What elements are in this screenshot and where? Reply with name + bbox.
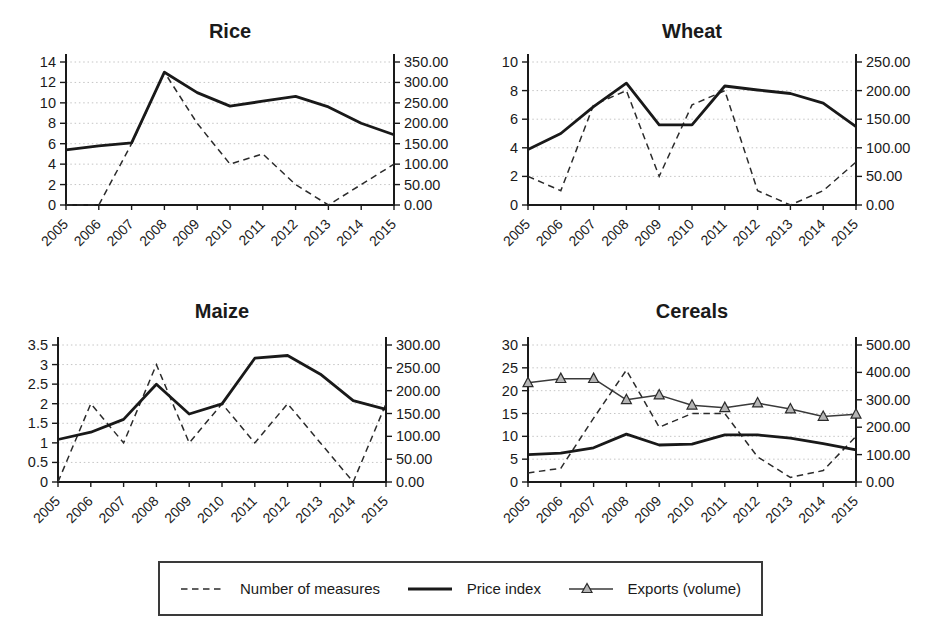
wheat-chart: Wheat 02468100.0050.00100.00150.00200.00…	[470, 0, 930, 280]
year-label: 2006	[71, 216, 104, 249]
triangle-marker	[851, 409, 861, 418]
left-tick-label: 0	[48, 197, 56, 213]
year-label: 2014	[325, 493, 358, 526]
year-label: 2007	[565, 216, 598, 249]
left-tick-label: 0	[510, 197, 518, 213]
left-tick-label: 2	[48, 177, 56, 193]
year-label: 2005	[500, 493, 533, 526]
year-label: 2005	[38, 216, 71, 249]
triangle-marker	[589, 373, 599, 382]
left-tick-label: 1	[40, 435, 48, 451]
left-tick-label: 4	[510, 140, 518, 156]
year-label: 2013	[300, 216, 333, 249]
rice-chart: Rice 024681012140.0050.00100.00150.00200…	[8, 0, 468, 280]
right-tick-label: 150.00	[396, 406, 440, 422]
year-label: 2007	[565, 493, 598, 526]
legend-label-price: Price index	[467, 580, 541, 597]
right-tick-label: 250.00	[396, 360, 440, 376]
rice-chart-canvas: Rice 024681012140.0050.00100.00150.00200…	[8, 0, 468, 280]
year-label: 2014	[795, 216, 828, 249]
year-label: 2012	[259, 493, 292, 526]
year-label: 2006	[533, 216, 566, 249]
right-tick-label: 0.00	[866, 197, 894, 213]
year-label: 2005	[30, 493, 63, 526]
year-label: 2009	[631, 216, 664, 249]
chart-title: Maize	[195, 300, 249, 322]
year-label: 2015	[366, 216, 399, 249]
year-label: 2010	[194, 493, 227, 526]
year-label: 2008	[598, 493, 631, 526]
triangle-marker-sample	[568, 581, 614, 597]
series-solid	[528, 83, 856, 149]
left-tick-label: 3.5	[28, 337, 48, 353]
left-tick-label: 0.5	[28, 454, 48, 470]
right-tick-label: 0.00	[866, 474, 894, 490]
right-tick-label: 200.00	[396, 383, 440, 399]
year-label: 2010	[664, 493, 697, 526]
year-label: 2009	[169, 216, 202, 249]
left-tick-label: 25	[502, 360, 518, 376]
wheat-chart-canvas: Wheat 02468100.0050.00100.00150.00200.00…	[470, 0, 930, 280]
right-tick-label: 100.00	[866, 447, 910, 463]
series-dashed	[66, 72, 394, 205]
right-tick-label: 300.00	[396, 337, 440, 353]
left-tick-label: 10	[502, 54, 518, 70]
right-tick-label: 250.00	[404, 95, 448, 111]
figure-commodity-charts: Rice 024681012140.0050.00100.00150.00200…	[0, 0, 935, 639]
year-label: 2014	[333, 216, 366, 249]
right-tick-label: 150.00	[404, 136, 448, 152]
right-tick-label: 350.00	[404, 54, 448, 70]
left-tick-label: 10	[502, 428, 518, 444]
right-tick-label: 300.00	[866, 392, 910, 408]
left-tick-label: 0	[510, 474, 518, 490]
year-label: 2015	[358, 493, 391, 526]
right-tick-label: 0.00	[396, 474, 424, 490]
series-marker	[528, 379, 856, 417]
right-tick-label: 200.00	[866, 83, 910, 99]
year-label: 2009	[631, 493, 664, 526]
series-dashed	[528, 370, 856, 477]
left-tick-label: 20	[502, 383, 518, 399]
year-label: 2015	[828, 493, 861, 526]
chart-title: Wheat	[662, 20, 722, 42]
year-label: 2005	[500, 216, 533, 249]
year-label: 2009	[161, 493, 194, 526]
left-tick-label: 10	[40, 95, 56, 111]
year-label: 2015	[828, 216, 861, 249]
year-label: 2010	[664, 216, 697, 249]
year-label: 2006	[63, 493, 96, 526]
right-tick-label: 300.00	[404, 74, 448, 90]
right-tick-label: 100.00	[866, 140, 910, 156]
year-label: 2013	[762, 216, 795, 249]
year-label: 2008	[128, 493, 161, 526]
left-tick-label: 12	[40, 74, 56, 90]
year-label: 2006	[533, 493, 566, 526]
right-tick-label: 100.00	[396, 428, 440, 444]
year-label: 2008	[136, 216, 169, 249]
year-label: 2008	[598, 216, 631, 249]
legend-label-measures: Number of measures	[240, 580, 380, 597]
year-label: 2013	[292, 493, 325, 526]
right-tick-label: 500.00	[866, 337, 910, 353]
right-tick-label: 100.00	[404, 156, 448, 172]
year-label: 2012	[729, 216, 762, 249]
left-tick-label: 6	[510, 111, 518, 127]
left-tick-label: 8	[510, 83, 518, 99]
right-tick-label: 0.00	[404, 197, 432, 213]
right-tick-label: 150.00	[866, 111, 910, 127]
year-label: 2013	[762, 493, 795, 526]
right-tick-label: 250.00	[866, 54, 910, 70]
left-tick-label: 2	[510, 168, 518, 184]
maize-chart: Maize 00.511.522.533.50.0050.00100.00150…	[0, 285, 460, 565]
legend-item-exports: Exports (volume)	[568, 580, 741, 597]
year-label: 2011	[227, 493, 260, 526]
year-label: 2010	[202, 216, 235, 249]
legend-item-price: Price index	[407, 580, 541, 597]
legend: Number of measures Price index Exports (…	[158, 561, 763, 616]
left-tick-label: 1.5	[28, 415, 48, 431]
series-solid	[66, 72, 394, 150]
left-tick-label: 5	[510, 451, 518, 467]
year-label: 2007	[103, 216, 136, 249]
cereals-chart-canvas: Cereals 0510152025300.00100.00200.00300.…	[470, 285, 930, 565]
right-tick-label: 200.00	[404, 115, 448, 131]
